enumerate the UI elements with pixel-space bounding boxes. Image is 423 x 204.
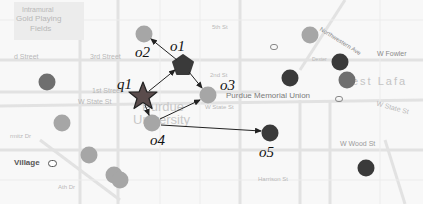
point-marker	[332, 54, 349, 71]
point-o3	[200, 87, 217, 104]
point-marker	[358, 160, 375, 177]
label-q1: q1	[117, 77, 132, 92]
point-marker	[282, 70, 299, 87]
point-marker	[302, 27, 319, 44]
label-o1: o1	[170, 39, 185, 54]
point-o4	[144, 115, 161, 132]
edge-o4-o5	[161, 125, 261, 131]
edge-o4-o3	[160, 100, 200, 119]
edge-o1-o3	[189, 72, 202, 88]
label-o5: o5	[259, 145, 274, 160]
point-marker	[112, 172, 129, 189]
label-o4: o4	[150, 133, 165, 148]
query-star-icon	[129, 82, 157, 109]
point-marker	[54, 115, 71, 132]
label-o3: o3	[220, 78, 235, 93]
label-o2: o2	[135, 45, 150, 60]
point-marker	[39, 74, 56, 91]
point-o2	[136, 26, 153, 43]
point-o5	[262, 125, 279, 142]
point-marker	[81, 147, 98, 164]
edge-q1-o1	[149, 70, 175, 91]
figure-canvas: Intramural Gold Playing Fields d Street …	[0, 0, 423, 204]
edges	[145, 39, 261, 131]
point-marker	[339, 72, 356, 89]
point-o1-pentagon	[173, 55, 193, 74]
points-overlay	[0, 0, 423, 204]
